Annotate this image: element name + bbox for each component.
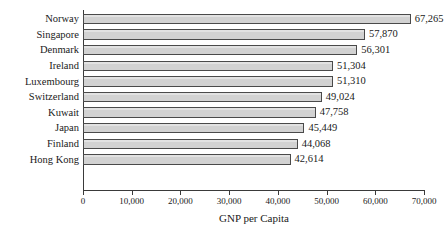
bar-highlight (84, 93, 321, 95)
x-axis-tick (180, 191, 181, 195)
bar-row: Hong Kong42,614 (0, 154, 441, 170)
bar (83, 61, 333, 72)
category-label: Norway (1, 13, 79, 25)
category-label: Hong Kong (1, 154, 79, 166)
bar (83, 139, 298, 150)
bar-highlight (84, 62, 332, 64)
bar-value-label: 47,758 (320, 106, 349, 119)
bar-row: Kuwait47,758 (0, 107, 441, 123)
bar-value-label: 49,024 (326, 91, 355, 104)
bar-highlight (84, 155, 290, 157)
bar-value-label: 56,301 (361, 44, 390, 57)
category-label: Japan (1, 122, 79, 134)
bar-highlight (84, 140, 297, 142)
bar-highlight (84, 124, 303, 126)
category-label: Switzerland (1, 91, 79, 103)
bar-row: Japan45,449 (0, 122, 441, 138)
bar-row: Norway67,265 (0, 13, 441, 29)
x-axis-tick (278, 191, 279, 195)
bar-value-label: 45,449 (308, 122, 337, 135)
x-axis-tick-label: 70,000 (394, 196, 448, 207)
bar-value-label: 57,870 (369, 28, 398, 41)
bar-row: Ireland51,304 (0, 60, 441, 76)
bar-value-label: 44,068 (302, 138, 331, 151)
category-label: Singapore (1, 29, 79, 41)
bar-value-label: 51,310 (337, 75, 366, 88)
bar (83, 123, 304, 134)
bar-value-label: 51,304 (337, 60, 366, 73)
bar-row: Finland44,068 (0, 138, 441, 154)
bar-row: Luxembourg51,310 (0, 76, 441, 92)
bar (83, 107, 316, 118)
bar-highlight (84, 46, 356, 48)
category-label: Kuwait (1, 107, 79, 119)
x-axis-tick (132, 191, 133, 195)
bar (83, 154, 291, 165)
bar-row: Switzerland49,024 (0, 91, 441, 107)
category-label: Finland (1, 138, 79, 150)
x-axis-tick (375, 191, 376, 195)
bar (83, 29, 365, 40)
bar (83, 92, 322, 103)
bar-highlight (84, 77, 332, 79)
x-axis-tick (83, 191, 84, 195)
category-label: Luxembourg (1, 76, 79, 88)
bar-highlight (84, 108, 315, 110)
x-axis-tick (229, 191, 230, 195)
x-axis-title: GNP per Capita (83, 212, 425, 225)
bar-row: Denmark56,301 (0, 44, 441, 60)
x-axis-line (83, 190, 425, 191)
x-axis-tick (327, 191, 328, 195)
bar (83, 45, 357, 56)
bar-highlight (84, 15, 410, 17)
bar-value-label: 42,614 (295, 153, 324, 166)
bar (83, 14, 411, 25)
x-axis-tick (424, 191, 425, 195)
bar (83, 76, 333, 87)
category-label: Ireland (1, 60, 79, 72)
bar-highlight (84, 30, 364, 32)
bar-row: Singapore57,870 (0, 29, 441, 45)
bar-value-label: 67,265 (415, 13, 444, 26)
category-label: Denmark (1, 44, 79, 56)
